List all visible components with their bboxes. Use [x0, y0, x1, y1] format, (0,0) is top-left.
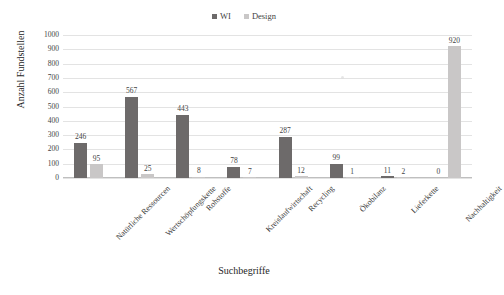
bar-design[interactable] — [295, 176, 308, 178]
bar-group: 56725 — [114, 35, 165, 178]
x-axis-tick-label: Kreislaufwirtschaft — [264, 184, 314, 234]
bar-design[interactable] — [243, 177, 256, 178]
y-axis-tick-label: 300 — [48, 131, 59, 139]
bar-value-label: 443 — [177, 105, 188, 113]
x-axis-tick-label: Natürliche Ressourcen — [114, 184, 172, 242]
bar-value-label: 920 — [449, 37, 460, 45]
legend-entry-wi: WI — [212, 12, 231, 21]
bar-value-label: 12 — [297, 167, 305, 175]
scan-artifact — [341, 76, 344, 79]
bar-value-label: 287 — [279, 127, 290, 135]
legend-label-design: Design — [252, 12, 276, 21]
y-axis-tick-label: 1000 — [44, 31, 59, 39]
bar-group: 0920 — [421, 35, 472, 178]
bar-value-label: 8 — [197, 167, 201, 175]
chart-legend: WI Design — [0, 12, 488, 21]
bar-value-label: 0 — [437, 168, 441, 176]
bar-group: 28712 — [268, 35, 319, 178]
bar-design[interactable] — [346, 177, 359, 178]
bar-design[interactable] — [90, 164, 103, 178]
y-axis-tick-label: 700 — [48, 74, 59, 82]
bar-wi[interactable] — [74, 143, 87, 178]
bar-group: 991 — [319, 35, 370, 178]
x-axis-tick-label: Nachhaltigkeit — [464, 184, 504, 224]
x-axis-tick-label: Lieferkette — [410, 184, 441, 215]
bar-value-label: 2 — [401, 168, 405, 176]
bar-value-label: 99 — [332, 154, 340, 162]
bar-wi[interactable] — [227, 167, 240, 178]
bar-wi[interactable] — [176, 115, 189, 178]
y-axis-tick-labels: 10009008007006005004003002001000 — [26, 35, 59, 178]
bar-design[interactable] — [141, 174, 154, 178]
y-axis-tick-label: 200 — [48, 146, 59, 154]
y-axis-tick-label: 400 — [48, 117, 59, 125]
bar-design[interactable] — [397, 177, 410, 178]
bar-value-label: 246 — [75, 133, 86, 141]
bar-design[interactable] — [192, 177, 205, 178]
bar-value-label: 78 — [230, 157, 238, 165]
x-axis-tick-label: Ökobilanz — [358, 184, 388, 214]
bar-value-label: 11 — [384, 167, 391, 175]
gridline — [63, 178, 472, 179]
legend-swatch-wi — [212, 14, 217, 19]
y-axis-tick-label: 500 — [48, 103, 59, 111]
bar-group: 787 — [216, 35, 267, 178]
bar-value-label: 25 — [144, 165, 152, 173]
y-axis-tick-label: 800 — [48, 60, 59, 68]
bar-design[interactable] — [448, 46, 461, 178]
bar-value-label: 7 — [248, 168, 252, 176]
bar-group: 24695 — [63, 35, 114, 178]
x-axis-title: Suchbegriffe — [0, 265, 488, 276]
bar-wi[interactable] — [330, 164, 343, 178]
y-axis-tick-label: 0 — [55, 174, 59, 182]
bar-value-label: 1 — [350, 168, 354, 176]
y-axis-tick-label: 900 — [48, 46, 59, 54]
legend-swatch-design — [244, 14, 249, 19]
bar-wi[interactable] — [381, 176, 394, 178]
bar-value-label: 567 — [126, 87, 137, 95]
bar-group: 112 — [370, 35, 421, 178]
bar-value-label: 95 — [93, 155, 101, 163]
bar-wi[interactable] — [125, 97, 138, 178]
y-axis-title: Anzahl Fundstellen — [15, 14, 26, 126]
y-axis-tick-label: 600 — [48, 88, 59, 96]
bar-wi[interactable] — [279, 137, 292, 178]
bar-group: 4438 — [165, 35, 216, 178]
y-axis-tick-label: 100 — [48, 160, 59, 168]
legend-label-wi: WI — [220, 12, 231, 21]
plot-area: 24695567254438787287129911120920 — [63, 35, 472, 178]
legend-entry-design: Design — [244, 12, 276, 21]
